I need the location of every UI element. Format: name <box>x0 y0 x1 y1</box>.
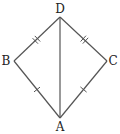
vertex-label-D: D <box>55 2 65 16</box>
vertex-label-C: C <box>108 54 117 68</box>
vertex-label-A: A <box>55 120 65 134</box>
segment-DB <box>14 17 60 61</box>
segments <box>14 17 107 118</box>
vertex-label-B: B <box>2 54 11 68</box>
kite-diagram: D B C A <box>0 0 120 134</box>
